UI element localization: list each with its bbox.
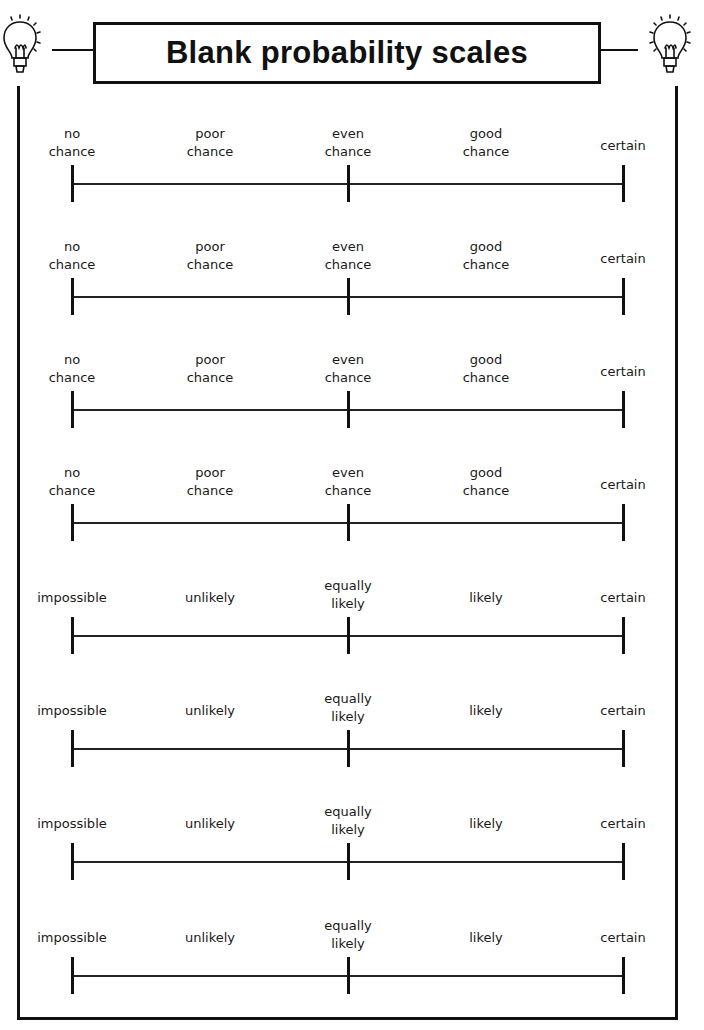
frame-right-border <box>675 86 678 1020</box>
scale-label: poorchance <box>150 464 270 500</box>
scale-label: equallylikely <box>288 690 408 726</box>
scale-label: poorchance <box>150 238 270 274</box>
scale-tick <box>622 165 625 202</box>
scale-label: impossible <box>12 815 132 833</box>
frame-bottom-border <box>17 1017 678 1020</box>
scale-label: unlikely <box>150 702 270 720</box>
scale-label: nochance <box>12 464 132 500</box>
scale-tick <box>347 391 350 428</box>
scale-tick <box>347 957 350 994</box>
scale-label: equallylikely <box>288 803 408 839</box>
scale-label: certain <box>563 250 683 268</box>
scale-tick <box>347 504 350 541</box>
scale-label: impossible <box>12 702 132 720</box>
scale-tick <box>71 165 74 202</box>
scale-tick <box>622 391 625 428</box>
scale-tick <box>71 957 74 994</box>
frame-left-border <box>17 86 20 1020</box>
scale-tick <box>347 278 350 315</box>
scale-tick <box>347 617 350 654</box>
scale-tick <box>622 504 625 541</box>
scale-tick <box>347 165 350 202</box>
scale-label: certain <box>563 815 683 833</box>
scale-label: certain <box>563 702 683 720</box>
scale-tick <box>71 391 74 428</box>
scale-label: certain <box>563 476 683 494</box>
scale-label: equallylikely <box>288 917 408 953</box>
scale-tick <box>622 957 625 994</box>
scale-label: likely <box>426 702 546 720</box>
scale-label: certain <box>563 589 683 607</box>
scale-label: nochance <box>12 125 132 161</box>
scale-label: impossible <box>12 589 132 607</box>
scale-label: unlikely <box>150 589 270 607</box>
scale-label: certain <box>563 137 683 155</box>
scale-tick <box>71 843 74 880</box>
scale-label: goodchance <box>426 238 546 274</box>
scale-label: evenchance <box>288 238 408 274</box>
scale-label: likely <box>426 589 546 607</box>
scale-label: impossible <box>12 929 132 947</box>
scale-tick <box>622 843 625 880</box>
scale-label: goodchance <box>426 125 546 161</box>
scale-label: certain <box>563 363 683 381</box>
scale-tick <box>622 730 625 767</box>
scale-tick <box>347 843 350 880</box>
scale-tick <box>71 730 74 767</box>
scale-label: poorchance <box>150 125 270 161</box>
scale-label: goodchance <box>426 351 546 387</box>
scale-tick <box>71 278 74 315</box>
scale-label: unlikely <box>150 815 270 833</box>
scale-label: evenchance <box>288 351 408 387</box>
scale-tick <box>71 504 74 541</box>
scale-label: evenchance <box>288 125 408 161</box>
scale-label: evenchance <box>288 464 408 500</box>
scale-label: nochance <box>12 351 132 387</box>
scale-tick <box>622 278 625 315</box>
scale-label: certain <box>563 929 683 947</box>
scale-label: unlikely <box>150 929 270 947</box>
scale-label: likely <box>426 929 546 947</box>
scale-label: poorchance <box>150 351 270 387</box>
scale-label: goodchance <box>426 464 546 500</box>
scale-tick <box>622 617 625 654</box>
scale-tick <box>347 730 350 767</box>
scale-label: nochance <box>12 238 132 274</box>
scale-label: equallylikely <box>288 577 408 613</box>
scale-label: likely <box>426 815 546 833</box>
probability-scale: impossibleunlikelyequallylikelylikelycer… <box>0 0 704 113</box>
scale-tick <box>71 617 74 654</box>
